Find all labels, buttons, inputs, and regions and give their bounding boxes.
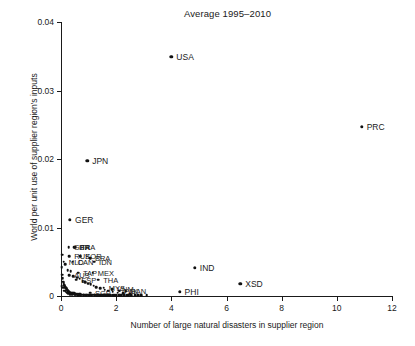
data-point-label-ban: BAN	[131, 287, 146, 296]
data-point	[125, 290, 128, 293]
x-tick-label: 0	[46, 303, 76, 313]
data-point-label-ind: IND	[200, 263, 215, 273]
plot-area	[61, 22, 392, 296]
data-point	[119, 294, 122, 297]
data-point-label-xsd: XSD	[245, 279, 262, 289]
data-point	[60, 266, 63, 269]
chart-title: Average 1995–2010	[0, 8, 415, 19]
y-axis-label: World per unit use of supplier region's …	[29, 17, 39, 297]
data-point-label-ger: GER	[75, 215, 93, 225]
data-point-label-idn: IDN	[99, 257, 112, 266]
data-point-label-gbr: GBR	[74, 243, 90, 252]
x-tick	[116, 297, 117, 301]
x-tick	[61, 297, 62, 301]
data-point	[61, 273, 64, 276]
data-point	[69, 270, 72, 273]
data-point	[113, 294, 116, 297]
x-tick-label: 8	[267, 303, 297, 313]
data-point	[61, 254, 64, 257]
data-point	[62, 260, 65, 263]
data-point-label-nld: NLD	[69, 257, 84, 266]
x-tick	[282, 297, 283, 301]
x-tick-label: 10	[322, 303, 352, 313]
y-tick	[57, 296, 61, 297]
data-point	[118, 289, 121, 292]
data-point	[93, 260, 96, 263]
x-tick-label: 6	[212, 303, 242, 313]
data-point	[67, 246, 70, 249]
data-point	[61, 277, 64, 280]
scatter-plot-figure: Average 1995–2010 024681012 00.010.020.0…	[0, 0, 415, 346]
x-tick-label: 12	[377, 303, 407, 313]
data-point-label-prc: PRC	[367, 122, 385, 132]
x-tick	[337, 297, 338, 301]
data-point	[68, 274, 71, 277]
data-point-label-sgp: SGP	[95, 288, 111, 297]
data-point	[73, 293, 76, 296]
x-tick-label: 4	[156, 303, 186, 313]
x-tick-label: 2	[101, 303, 131, 313]
data-point	[111, 288, 114, 291]
x-tick	[171, 297, 172, 301]
data-point-label-usa: USA	[176, 52, 193, 62]
data-point	[64, 263, 67, 266]
data-point	[75, 278, 78, 281]
data-point	[91, 271, 94, 274]
data-point-label-esp: ESP	[81, 275, 96, 284]
data-point-label-jpn: JPN	[92, 156, 108, 166]
x-axis-label: Number of large natural disasters in sup…	[61, 320, 393, 330]
data-point-label-phi: PHI	[185, 287, 199, 297]
x-tick	[392, 297, 393, 301]
data-point	[97, 278, 100, 281]
data-point	[89, 291, 92, 294]
x-tick	[227, 297, 228, 301]
